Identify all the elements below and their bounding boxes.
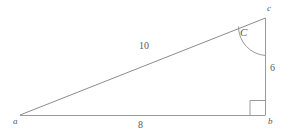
side-length-label-ca: 10 — [139, 41, 149, 51]
side-length-label-ab: 8 — [138, 120, 143, 130]
right-angle-marker — [250, 101, 265, 116]
triangle-diagram: a b c 8 6 10 C — [0, 0, 289, 138]
side-ca-line — [20, 18, 266, 115]
vertex-label-a: a — [13, 117, 18, 126]
triangle-svg — [0, 0, 289, 138]
side-length-label-bc: 6 — [270, 63, 275, 73]
vertex-label-b: b — [268, 117, 273, 126]
vertex-label-c: c — [267, 4, 271, 13]
angle-label-c: C — [240, 27, 247, 38]
